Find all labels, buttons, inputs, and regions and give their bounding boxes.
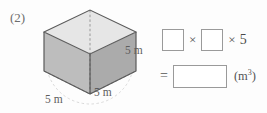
answer-box-factor-2[interactable] [201, 29, 223, 51]
dimension-label-depth: 5 m [94, 86, 112, 98]
equation-product-row: × × 5 [160, 22, 265, 58]
unit-base: (m [234, 69, 248, 83]
problem-number: (2) [10, 10, 25, 26]
equation-result-row: = (m3) [160, 58, 265, 94]
multiply-icon-1: × [184, 32, 201, 48]
dimension-label-height: 5 m [125, 44, 143, 56]
factor-three-value: 5 [240, 32, 247, 48]
dimension-label-width: 5 m [45, 93, 63, 105]
answer-box-result[interactable] [173, 65, 227, 88]
worksheet-problem: (2) 5 m 5 m 5 [0, 0, 267, 113]
unit-cubic-meters: (m3) [227, 69, 256, 84]
unit-close: ) [252, 69, 256, 83]
answer-box-factor-1[interactable] [162, 29, 184, 51]
equation-block: × × 5 = (m3) [160, 22, 265, 102]
equals-icon: = [160, 68, 173, 84]
multiply-icon-2: × [223, 32, 239, 48]
